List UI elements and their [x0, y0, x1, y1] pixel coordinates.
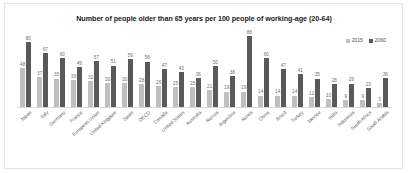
bar-value-label: 80 — [26, 37, 31, 42]
bar-value-label: 38 — [230, 71, 235, 76]
bar-group: 923 — [357, 30, 374, 107]
bar-2060[interactable]: 60 — [60, 58, 65, 107]
bar-value-label: 14 — [275, 90, 280, 95]
bar-2015[interactable]: 12 — [309, 97, 314, 107]
bar-value-label: 25 — [190, 82, 195, 87]
bar-value-label: 14 — [258, 90, 263, 95]
bar-value-label: 32 — [88, 76, 93, 81]
bar-group: 1028 — [323, 30, 340, 107]
bar-2060[interactable]: 60 — [264, 58, 269, 107]
x-axis-tick-label: Canada — [152, 110, 168, 125]
bar-group: 3051 — [102, 30, 119, 107]
bar-2060[interactable]: 35 — [315, 79, 320, 107]
bar-value-label: 56 — [145, 56, 150, 61]
bar-value-label: 29 — [349, 78, 354, 83]
bar-2015[interactable]: 10 — [326, 99, 331, 107]
bar-group: 2543 — [170, 30, 187, 107]
bar-value-label: 47 — [162, 64, 167, 69]
bar-2060[interactable]: 47 — [162, 69, 167, 107]
bar-value-label: 26 — [156, 81, 161, 86]
bar-2060[interactable]: 51 — [111, 66, 116, 107]
bar-2015[interactable]: 14 — [258, 96, 263, 107]
bar-2015[interactable]: 37 — [37, 77, 42, 107]
bar-2015[interactable]: 19 — [224, 92, 229, 107]
bar-value-label: 37 — [37, 72, 42, 77]
bar-2060[interactable]: 56 — [145, 62, 150, 107]
bar-value-label: 47 — [281, 64, 286, 69]
chart-title: Number of people older than 65 years per… — [0, 14, 408, 23]
bar-2060[interactable]: 29 — [349, 84, 354, 108]
bar-group: 2856 — [136, 30, 153, 107]
bar-group: 4880 — [17, 30, 34, 107]
bar-2015[interactable]: 14 — [275, 96, 280, 107]
bar-group: 2150 — [204, 30, 221, 107]
bar-value-label: 36 — [196, 73, 201, 78]
x-axis-tick-label: Japan — [19, 110, 32, 122]
bar-group: 3560 — [51, 30, 68, 107]
chart-screenshot: { "chart_data": { "type": "bar", "title"… — [0, 0, 408, 173]
bar-value-label: 5 — [378, 98, 381, 103]
bar-2015[interactable]: 9 — [360, 100, 365, 107]
bar-2060[interactable]: 80 — [26, 42, 31, 107]
bar-2060[interactable]: 47 — [281, 69, 286, 107]
bar-2015[interactable]: 33 — [71, 80, 76, 107]
bar-2015[interactable]: 35 — [54, 79, 59, 107]
bar-2060[interactable]: 59 — [128, 59, 133, 107]
x-axis-tick-label: India — [327, 110, 338, 121]
bar-2060[interactable]: 36 — [196, 78, 201, 107]
bar-value-label: 60 — [60, 53, 65, 58]
bar-group: 2647 — [153, 30, 170, 107]
bar-group: 536 — [374, 30, 391, 107]
bar-2015[interactable]: 28 — [139, 84, 144, 107]
bar-2060[interactable]: 50 — [213, 66, 218, 107]
bar-value-label: 28 — [332, 79, 337, 84]
bar-2060[interactable]: 38 — [230, 76, 235, 107]
bar-2060[interactable]: 43 — [179, 72, 184, 107]
bar-2060[interactable]: 57 — [94, 61, 99, 107]
x-axis-tick-label: Turkey — [290, 110, 304, 123]
bar-value-label: 10 — [326, 94, 331, 99]
bar-value-label: 51 — [111, 60, 116, 65]
plot-area: 4880376735603349325730513059285626472543… — [17, 30, 391, 107]
x-axis-tick-label: Italy — [39, 110, 49, 120]
x-axis-tick-label: Korea — [240, 110, 253, 122]
bar-value-label: 12 — [309, 92, 314, 97]
bar-group: 929 — [340, 30, 357, 107]
bar-2060[interactable]: 88 — [247, 36, 252, 107]
bar-2015[interactable]: 21 — [207, 90, 212, 107]
bar-2060[interactable]: 41 — [298, 74, 303, 107]
bar-2015[interactable]: 26 — [156, 86, 161, 107]
x-axis-tick-label: Mexico — [306, 110, 321, 124]
bar-2060[interactable]: 36 — [383, 78, 388, 107]
bar-2015[interactable]: 25 — [173, 87, 178, 107]
bar-2015[interactable]: 32 — [88, 81, 93, 107]
bar-2015[interactable]: 19 — [241, 92, 246, 107]
bar-2015[interactable]: 14 — [292, 96, 297, 107]
x-axis-tick-label: Germany — [48, 110, 66, 127]
bar-2060[interactable]: 28 — [332, 84, 337, 107]
bar-value-label: 48 — [20, 63, 25, 68]
bar-2060[interactable]: 23 — [366, 88, 371, 107]
bar-value-label: 25 — [173, 82, 178, 87]
bar-value-label: 67 — [43, 48, 48, 53]
bar-value-label: 35 — [54, 73, 59, 78]
bar-2060[interactable]: 67 — [43, 53, 48, 107]
x-axis-tick-label: Argentina — [217, 110, 236, 127]
bar-2015[interactable]: 48 — [20, 68, 25, 107]
bar-2060[interactable]: 49 — [77, 67, 82, 107]
bar-value-label: 59 — [128, 54, 133, 59]
bar-value-label: 9 — [361, 95, 364, 100]
bar-value-label: 14 — [292, 90, 297, 95]
bar-group: 1460 — [255, 30, 272, 107]
bar-2015[interactable]: 9 — [343, 100, 348, 107]
bar-2015[interactable]: 25 — [190, 87, 195, 107]
bar-value-label: 30 — [105, 78, 110, 83]
bar-value-label: 19 — [224, 86, 229, 91]
bar-value-label: 35 — [315, 73, 320, 78]
bar-group: 1447 — [272, 30, 289, 107]
bar-2015[interactable]: 30 — [122, 83, 127, 107]
bar-2015[interactable]: 30 — [105, 83, 110, 107]
x-axis-tick-label: Brazil — [275, 110, 287, 122]
bar-value-label: 9 — [344, 95, 347, 100]
x-axis-tick-label: OECD — [137, 110, 151, 123]
